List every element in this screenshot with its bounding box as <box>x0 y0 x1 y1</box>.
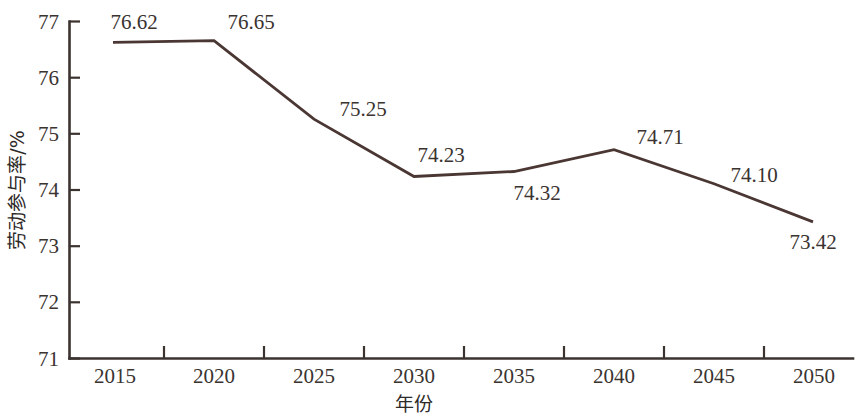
y-axis-title: 劳动参与率/% <box>6 130 28 249</box>
data-series-line <box>113 41 813 222</box>
y-axis-label-77: 77 <box>38 10 59 34</box>
x-axis-label-2020: 2020 <box>193 364 235 388</box>
x-axis-label-2045: 2045 <box>693 364 735 388</box>
data-label-2030: 74.23 <box>417 143 464 167</box>
x-axis-ticks <box>164 346 764 359</box>
x-axis-label-2025: 2025 <box>293 364 335 388</box>
data-label-2045: 74.10 <box>730 163 777 187</box>
x-axis-title: 年份 <box>395 393 433 415</box>
y-axis-ticks <box>70 22 81 359</box>
data-label-2050: 73.42 <box>789 230 836 254</box>
x-axis-label-2030: 2030 <box>393 364 435 388</box>
data-label-2035: 74.32 <box>513 181 560 205</box>
x-axis-label-2050: 2050 <box>793 364 835 388</box>
line-chart: 77 76 75 74 73 72 71 2015 2020 2025 2030… <box>0 0 857 417</box>
data-label-2025: 75.25 <box>339 97 386 121</box>
x-axis-label-2035: 2035 <box>493 364 535 388</box>
x-axis-label-2040: 2040 <box>593 364 635 388</box>
chart-page: 77 76 75 74 73 72 71 2015 2020 2025 2030… <box>0 0 857 417</box>
x-axis-label-2015: 2015 <box>94 364 136 388</box>
y-axis-label-76: 76 <box>38 66 59 90</box>
data-label-2040: 74.71 <box>636 125 683 149</box>
y-axis-label-73: 73 <box>38 234 59 258</box>
data-label-2020: 76.65 <box>227 10 274 34</box>
y-axis-label-71: 71 <box>38 347 59 371</box>
y-axis-label-72: 72 <box>38 290 59 314</box>
y-axis-label-74: 74 <box>38 178 60 202</box>
data-label-2015: 76.62 <box>110 10 157 34</box>
y-axis-label-75: 75 <box>38 122 59 146</box>
